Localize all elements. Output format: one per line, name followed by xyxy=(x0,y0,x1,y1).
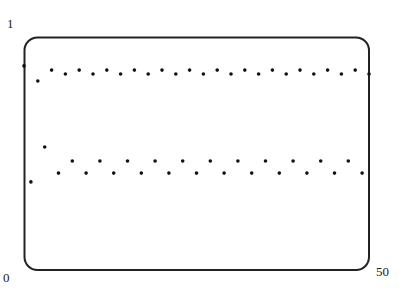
y-max-label: 1 xyxy=(7,16,14,31)
data-point xyxy=(160,68,164,72)
data-point xyxy=(360,171,364,175)
data-point xyxy=(319,159,323,163)
data-point xyxy=(333,171,337,175)
data-point xyxy=(305,171,309,175)
data-point xyxy=(140,171,144,175)
data-point xyxy=(215,68,219,72)
data-point xyxy=(209,159,213,163)
data-point xyxy=(264,159,268,163)
data-point xyxy=(353,68,357,72)
data-point xyxy=(133,68,137,72)
data-point xyxy=(153,159,157,163)
data-point xyxy=(271,68,275,72)
data-point xyxy=(284,72,288,76)
data-point xyxy=(181,159,185,163)
data-point xyxy=(22,64,26,68)
data-point xyxy=(188,68,192,72)
data-point xyxy=(291,159,295,163)
data-point xyxy=(243,68,247,72)
data-point xyxy=(202,72,206,76)
data-point xyxy=(105,68,109,72)
data-point xyxy=(77,68,81,72)
data-point xyxy=(36,79,40,83)
data-point xyxy=(146,72,150,76)
data-point xyxy=(91,72,95,76)
data-point xyxy=(298,68,302,72)
data-point xyxy=(167,171,171,175)
data-point xyxy=(229,72,233,76)
data-point xyxy=(222,171,226,175)
data-point xyxy=(43,145,47,149)
data-point xyxy=(112,171,116,175)
data-point xyxy=(340,72,344,76)
plot-frame xyxy=(25,38,370,271)
data-point xyxy=(236,159,240,163)
x-min-label: 0 xyxy=(3,270,10,285)
data-point xyxy=(126,159,130,163)
data-point xyxy=(119,72,123,76)
x-max-label: 50 xyxy=(376,264,389,279)
data-point xyxy=(29,180,33,184)
data-point xyxy=(64,72,68,76)
data-point xyxy=(57,171,61,175)
chart: 1 0 50 xyxy=(0,0,416,296)
data-point xyxy=(367,72,371,76)
data-point xyxy=(326,68,330,72)
data-point xyxy=(312,72,316,76)
data-point xyxy=(347,159,351,163)
data-point xyxy=(71,159,75,163)
data-points xyxy=(22,64,371,184)
data-point xyxy=(50,68,54,72)
data-point xyxy=(174,72,178,76)
data-point xyxy=(98,159,102,163)
data-point xyxy=(195,171,199,175)
data-point xyxy=(278,171,282,175)
data-point xyxy=(84,171,88,175)
data-point xyxy=(250,171,254,175)
data-point xyxy=(257,72,261,76)
